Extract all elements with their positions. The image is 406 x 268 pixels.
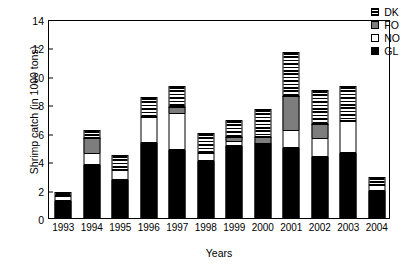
bar-segment-dk <box>368 177 385 186</box>
bar-segment-no <box>169 113 186 150</box>
x-axis-tick-mark <box>263 214 264 218</box>
legend-label: NO <box>384 33 400 44</box>
bar-segment-fo <box>254 137 271 143</box>
bar-segment-no <box>226 141 243 145</box>
x-axis-label: Years <box>48 247 390 259</box>
bar-segment-dk <box>112 155 129 169</box>
bar-segment-dk <box>254 109 271 137</box>
legend-label: FO <box>384 20 399 31</box>
bar-segment-no <box>340 121 357 152</box>
x-axis-tick-label: 2003 <box>337 223 359 233</box>
bar-segment-fo <box>83 138 100 152</box>
bar-segment-gl <box>311 157 328 218</box>
bar-segment-no <box>368 185 385 191</box>
legend-item-fo: FO <box>371 19 400 31</box>
bar-segment-dk <box>140 97 157 117</box>
bar-segment-no <box>140 117 157 143</box>
bar-segment-gl <box>83 165 100 218</box>
bar-segment-fo <box>283 96 300 130</box>
legend-label: GL <box>384 46 398 57</box>
legend-swatch-dk <box>371 8 379 16</box>
x-axis-tick-mark <box>234 214 235 218</box>
chart-figure: Shrimp catch (in 1000 tons) 024681012141… <box>0 0 406 268</box>
legend-swatch-no <box>371 34 379 42</box>
bar-segment-gl <box>283 148 300 218</box>
bar-segment-gl <box>140 143 157 218</box>
bar-segment-dk <box>197 133 214 153</box>
legend-item-no: NO <box>371 32 400 44</box>
bar-segment-gl <box>254 143 271 218</box>
bar-segment-no <box>55 196 72 201</box>
y-axis-tick-mark <box>49 49 53 50</box>
x-axis-tick-label: 2000 <box>252 223 274 233</box>
y-axis-tick-mark <box>49 191 53 192</box>
bar-segment-gl <box>340 153 357 218</box>
y-axis-tick-label: 8 <box>38 101 44 112</box>
x-axis-tick-mark <box>320 214 321 218</box>
bar-segment-no <box>283 130 300 148</box>
y-axis-tick-label: 4 <box>38 158 44 169</box>
x-axis-tick-mark <box>348 214 349 218</box>
x-axis-tick-mark <box>149 214 150 218</box>
x-axis-tick-label: 2002 <box>309 223 331 233</box>
bar-segment-fo <box>169 107 186 113</box>
y-axis-tick-label: 6 <box>38 129 44 140</box>
y-axis-tick-mark <box>49 106 53 107</box>
bar-segment-gl <box>112 180 129 218</box>
x-axis-tick-mark <box>206 214 207 218</box>
x-axis-tick-label: 1996 <box>138 223 160 233</box>
bar-segment-dk <box>226 120 243 137</box>
bar-segment-fo <box>226 137 243 141</box>
bar-segment-no <box>197 153 214 162</box>
bar-segment-dk <box>169 86 186 107</box>
bar-segment-gl <box>226 146 243 218</box>
y-axis-tick-label: 2 <box>38 186 44 197</box>
bar-segment-no <box>311 138 328 156</box>
bar-segment-fo <box>311 124 328 138</box>
bar-segment-no <box>83 153 100 166</box>
y-axis-tick-mark <box>49 134 53 135</box>
bar-segment-gl <box>197 161 214 218</box>
bar-segment-dk <box>340 86 357 122</box>
x-axis-tick-label: 1997 <box>166 223 188 233</box>
x-axis-tick-label: 1999 <box>223 223 245 233</box>
y-axis-tick-mark <box>49 163 53 164</box>
legend-item-gl: GL <box>371 45 400 57</box>
x-axis-tick-mark <box>63 214 64 218</box>
plot-area: 0246810121419931994199519961997199819992… <box>48 20 390 219</box>
x-axis-tick-label: 1994 <box>81 223 103 233</box>
y-axis-tick-label: 10 <box>32 73 44 84</box>
x-axis-tick-label: 2004 <box>366 223 388 233</box>
y-axis-tick-label: 12 <box>32 44 44 55</box>
x-axis-tick-label: 1995 <box>109 223 131 233</box>
legend-swatch-gl <box>371 47 379 55</box>
x-axis-tick-mark <box>92 214 93 218</box>
y-axis-tick-mark <box>49 77 53 78</box>
y-axis-tick-label: 14 <box>32 16 44 27</box>
bar-segment-no <box>112 170 129 181</box>
x-axis-tick-mark <box>377 214 378 218</box>
x-axis-tick-label: 1998 <box>195 223 217 233</box>
x-axis-tick-label: 2001 <box>280 223 302 233</box>
legend-item-dk: DK <box>371 6 400 18</box>
x-axis-tick-label: 1993 <box>52 223 74 233</box>
bar-segment-gl <box>169 150 186 218</box>
bar-segment-dk <box>55 192 72 196</box>
x-axis-tick-mark <box>120 214 121 218</box>
bar-segment-dk <box>311 90 328 124</box>
bar-segment-dk <box>83 130 100 139</box>
legend-swatch-fo <box>371 21 379 29</box>
y-axis-tick-label: 0 <box>38 215 44 226</box>
chart-legend: DKFONOGL <box>371 6 400 57</box>
x-axis-tick-mark <box>291 214 292 218</box>
bar-segment-dk <box>283 52 300 96</box>
legend-label: DK <box>384 7 399 18</box>
x-axis-tick-mark <box>177 214 178 218</box>
